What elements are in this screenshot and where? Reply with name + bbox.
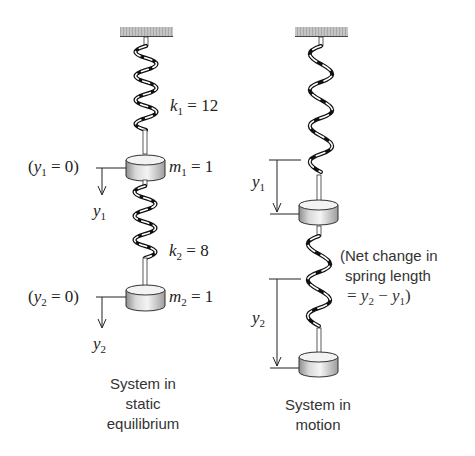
- left-y1-arrow: [98, 168, 106, 195]
- left-mass-1: [126, 155, 165, 181]
- left-spring-2: [135, 186, 156, 258]
- y1-axis-label: y1: [93, 201, 106, 222]
- left-y2-arrow: [98, 297, 106, 328]
- right-caption: System in motion: [268, 395, 368, 435]
- right-y2-dimension: [269, 279, 301, 368]
- right-spring-1: [310, 46, 333, 172]
- y2-reference-label: (y2 = 0): [28, 287, 79, 308]
- right-spring-2: [308, 236, 331, 326]
- left-caption: System in static equilibrium: [88, 374, 198, 434]
- right-rod-1: [317, 175, 321, 203]
- left-rod-2b: [143, 258, 147, 286]
- y2-axis-label: y2: [93, 334, 106, 355]
- k2-label: k2 = 8: [169, 241, 209, 262]
- left-ceiling: [120, 27, 173, 37]
- left-spring-1: [136, 46, 157, 130]
- k1-label: k1 = 12: [170, 96, 218, 117]
- right-ceiling: [295, 27, 348, 37]
- right-mass-2: [299, 352, 338, 377]
- right-y1-label: y1: [252, 172, 265, 193]
- m2-label: m2 = 1: [169, 287, 213, 308]
- spring-mass-diagram: k1 = 12 m1 = 1 (y1 = 0) y1 k2 = 8 m2 = 1…: [0, 0, 475, 456]
- right-y1-dimension: [269, 160, 301, 214]
- right-mass-1: [299, 200, 338, 225]
- y1-reference-label: (y1 = 0): [28, 157, 79, 178]
- left-rod-1: [143, 130, 147, 154]
- net-change-note: (Net change in spring length = y2 − y1): [340, 246, 438, 311]
- m1-label: m1 = 1: [169, 157, 213, 178]
- right-y2-label: y2: [252, 308, 265, 329]
- left-mass-2: [126, 285, 165, 311]
